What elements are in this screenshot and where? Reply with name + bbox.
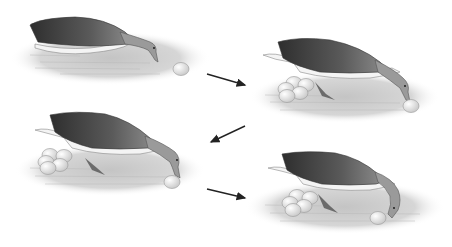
egg: [164, 176, 180, 189]
panel-4: [245, 152, 445, 234]
egg: [370, 212, 386, 225]
nest: [250, 71, 440, 123]
panel-3: [15, 112, 205, 196]
goose-egg-retrieval-figure: [0, 0, 452, 247]
arrow-1-to-2: [207, 74, 245, 85]
arrow-3-to-4: [207, 189, 245, 198]
egg: [403, 100, 419, 113]
panel-1: [10, 17, 210, 85]
panel-2: [250, 38, 440, 123]
arrow-2-to-3: [211, 126, 245, 142]
egg: [173, 63, 189, 76]
